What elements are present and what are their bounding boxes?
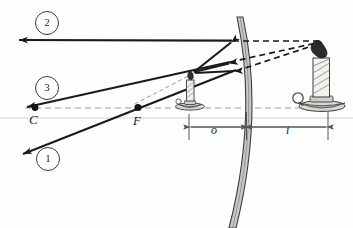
label-image-distance: i: [286, 123, 289, 138]
image-candle-virtual: [293, 41, 345, 112]
label-object-distance: o: [211, 123, 217, 138]
image-candle-handle: [293, 93, 303, 103]
focal-point-dot: [134, 104, 141, 111]
ray-label-3: 3: [35, 76, 59, 100]
label-focal-point: F: [133, 113, 141, 129]
diagram-canvas: [0, 0, 353, 228]
convex-mirror-surface: [229, 17, 252, 228]
center-of-curvature-dot: [32, 104, 39, 111]
image-candle-flame: [311, 41, 327, 58]
object-candle-handle: [176, 99, 181, 104]
label-center-of-curvature: C: [29, 112, 38, 128]
image-candle-body: [313, 58, 330, 97]
ray-label-1: 1: [36, 147, 60, 171]
optics-ray-diagram: 2 3 1 C F o i: [0, 0, 353, 228]
dimension-group: [189, 112, 328, 140]
ray-2-reflected: [19, 40, 232, 41]
ray-label-2: 2: [35, 11, 59, 35]
ray-2-path: [19, 40, 232, 72]
object-candle: [176, 70, 205, 110]
